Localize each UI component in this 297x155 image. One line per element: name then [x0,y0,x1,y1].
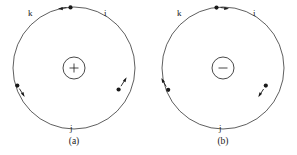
particle-dot-top [214,6,218,10]
particle-label-j: j [219,124,222,133]
velocity-arrow-i [258,89,263,97]
particle-dot-top [68,5,72,9]
velocity-arrow-top [58,7,67,10]
velocity-arrow-i [121,77,127,86]
particle-dot-i [264,84,268,88]
figure-caption-b: (b) [149,136,297,146]
nucleus-sign-plus [70,64,79,73]
particle-dot-k [15,84,19,88]
velocity-arrow-k [161,78,166,87]
particle-label-i: i [104,9,107,18]
figure-a-canvas [0,0,148,140]
diagram-root: k i j (a) [0,0,297,155]
velocity-arrow-k [19,89,24,97]
figure-b: k i j (b) [149,0,297,155]
particle-label-i: i [253,9,256,18]
particle-label-j: j [70,124,73,133]
particle-dot-i [117,87,121,91]
particle-label-k: k [177,9,182,18]
particle-label-k: k [28,9,33,18]
particle-dot-k [166,88,170,92]
figure-b-canvas [149,0,297,140]
figure-a: k i j (a) [0,0,148,155]
figure-caption-a: (a) [0,136,148,146]
